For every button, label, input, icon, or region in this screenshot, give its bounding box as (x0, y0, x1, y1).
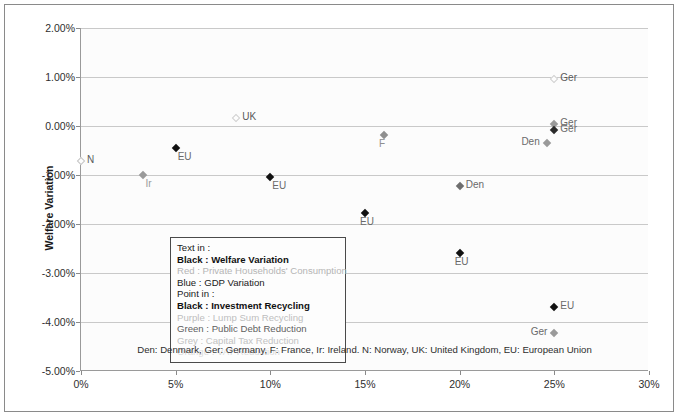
y-tick-mark (76, 28, 80, 29)
data-point-marker (550, 303, 558, 311)
country-abbreviation-note: Den: Denmark, Ger: Germany, F: France, I… (81, 344, 648, 355)
legend-entry: Purple : Lump Sum Recycling (177, 312, 340, 324)
y-tick-label: 2.00% (33, 22, 75, 34)
legend-entry: Point in : (177, 288, 340, 300)
x-tick-label: 15% (354, 378, 375, 390)
y-tick-mark (76, 371, 80, 372)
plot-area: 2.00%1.00%0.00%-1.00%-2.00%-3.00%-4.00%-… (80, 28, 648, 371)
data-point-marker (550, 329, 558, 337)
legend-entry: Text in : (177, 242, 340, 254)
x-tick-mark (270, 371, 271, 375)
data-point-label: Ger (560, 73, 577, 83)
gridline (81, 322, 648, 323)
data-point-label: Ger (560, 124, 577, 134)
y-tick-mark (76, 175, 80, 176)
legend-entry: Blue : GDP Variation (177, 277, 340, 289)
x-tick-mark (176, 371, 177, 375)
y-tick-label: -3.00% (33, 267, 75, 279)
y-tick-mark (76, 77, 80, 78)
y-tick-mark (76, 224, 80, 225)
data-point-label: N (87, 155, 94, 165)
chart-figure: Welfare Variation 2.00%1.00%0.00%-1.00%-… (0, 0, 678, 416)
legend-entry: Black : Investment Recycling (177, 300, 340, 312)
y-tick-label: -1.00% (33, 169, 75, 181)
gridline (81, 175, 648, 176)
gridline (81, 28, 648, 29)
x-tick-label: 25% (544, 378, 565, 390)
data-point-label: EU (360, 217, 374, 227)
x-tick-mark (365, 371, 366, 375)
data-point-label: EU (455, 257, 469, 267)
x-tick-label: 0% (73, 378, 88, 390)
gridline (81, 273, 648, 274)
data-point-label: EU (178, 152, 192, 162)
data-point-marker (455, 182, 463, 190)
x-tick-mark (554, 371, 555, 375)
x-tick-mark (81, 371, 82, 375)
data-point-label: UK (242, 112, 256, 122)
data-point-label: Ger (531, 327, 548, 337)
x-tick-label: 5% (168, 378, 183, 390)
legend-entry: Green : Public Debt Reduction (177, 323, 340, 335)
data-point-label: Ir (145, 179, 151, 189)
y-tick-mark (76, 126, 80, 127)
data-point-marker (232, 113, 240, 121)
y-tick-label: -4.00% (33, 316, 75, 328)
x-tick-mark (649, 371, 650, 375)
y-tick-label: -5.00% (33, 365, 75, 377)
y-tick-mark (76, 273, 80, 274)
data-point-label: EU (272, 181, 286, 191)
data-point-label: Den (466, 180, 484, 190)
data-point-label: Den (521, 137, 539, 147)
data-point-marker (543, 139, 551, 147)
x-tick-label: 10% (260, 378, 281, 390)
y-tick-label: 1.00% (33, 71, 75, 83)
legend-entry: Red : Private Households' Consumption (177, 265, 340, 277)
legend-entry: Black : Welfare Variation (177, 254, 340, 266)
data-point-label: EU (560, 301, 574, 311)
x-tick-label: 30% (638, 378, 659, 390)
y-tick-label: 0.00% (33, 120, 75, 132)
x-tick-mark (460, 371, 461, 375)
x-tick-label: 20% (449, 378, 470, 390)
y-tick-mark (76, 322, 80, 323)
data-point-label: F (379, 139, 385, 149)
y-tick-label: -2.00% (33, 218, 75, 230)
